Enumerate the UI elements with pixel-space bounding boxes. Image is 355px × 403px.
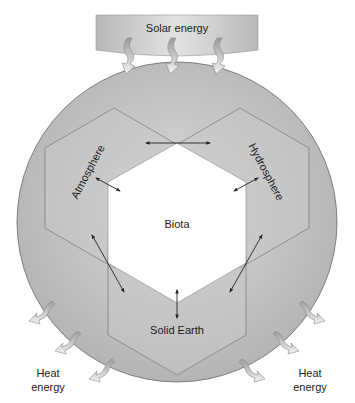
heat-energy-left-line2: energy <box>31 381 65 394</box>
heat-energy-left-line1: Heat <box>36 367 59 380</box>
heat-energy-right-line1: Heat <box>298 367 321 380</box>
solid-earth-label: Solid Earth <box>150 324 204 337</box>
biota-label: Biota <box>164 218 189 231</box>
diagram-canvas <box>0 0 355 403</box>
heat-energy-right-line2: energy <box>293 381 327 394</box>
solar-energy-label: Solar energy <box>146 22 208 35</box>
